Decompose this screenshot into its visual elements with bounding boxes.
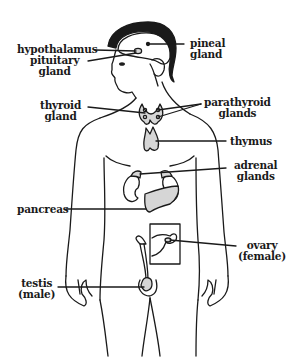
right-hand <box>202 276 228 306</box>
left-kidney <box>124 176 140 202</box>
left-adrenal <box>131 171 141 178</box>
label-adrenal-glands: adrenal glands <box>234 160 277 181</box>
endocrine-diagram: hypothalamus pituitary gland pineal glan… <box>0 0 295 358</box>
thymus-shape <box>144 127 159 151</box>
pancreas-shape <box>145 186 179 212</box>
label-ovary-female: ovary (female) <box>238 240 286 261</box>
testis-shape <box>141 278 152 291</box>
label-hypothalamus: hypothalamus <box>17 44 97 55</box>
thyroid-shape <box>139 104 163 124</box>
label-testis-male: testis (male) <box>18 278 55 299</box>
label-pineal-gland: pineal gland <box>190 38 225 59</box>
label-thyroid-gland: thyroid gland <box>40 100 81 121</box>
left-hand <box>66 276 92 306</box>
label-pancreas: pancreas <box>17 204 69 215</box>
brain-outline <box>118 33 170 64</box>
label-parathyroid-glands: parathyroid glands <box>204 97 271 118</box>
label-pituitary-gland: pituitary gland <box>30 55 79 76</box>
label-thymus: thymus <box>230 136 272 147</box>
torso-left <box>66 118 100 276</box>
face-outline <box>111 50 136 98</box>
